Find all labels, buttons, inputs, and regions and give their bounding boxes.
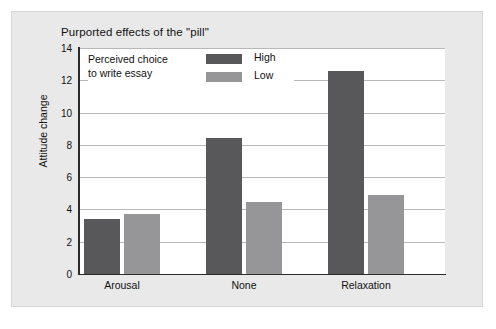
x-axis-label-arousal: Arousal [104,279,140,291]
chart-figure: Purported effects of the "pill" Attitude… [0,0,496,329]
y-axis-tick-label: 8 [50,139,72,150]
y-axis-line [78,47,80,275]
legend-label-high: High [254,51,276,63]
bar-none-low [246,202,282,274]
x-axis-label-relaxation: Relaxation [341,279,391,291]
y-axis-tick-label: 14 [50,43,72,54]
bar-relaxation-low [368,195,404,274]
y-axis-tick-label: 10 [50,107,72,118]
legend-label-low: Low [254,69,273,81]
y-axis-tick-labels: 02468101214 [48,48,72,274]
y-axis-tick-label: 6 [50,172,72,183]
gridline [78,177,445,178]
y-axis-tick-label: 12 [50,75,72,86]
chart-title: Purported effects of the "pill" [61,26,209,38]
legend-title: Perceived choice to write essay [88,52,200,80]
gridline [78,145,445,146]
legend-swatch-high-icon [206,54,242,64]
x-axis-line [78,274,446,276]
legend-title-line-2: to write essay [88,66,200,80]
y-axis-tick-label: 0 [50,269,72,280]
bar-none-high [206,138,242,274]
bar-arousal-high [84,219,120,274]
legend-swatch-low-icon [206,72,242,82]
gridline [78,113,445,114]
y-axis-tick-label: 4 [50,204,72,215]
legend-title-line-1: Perceived choice [88,52,200,66]
chart-legend: Perceived choice to write essay High Low [88,52,294,88]
y-axis-tick-label: 2 [50,236,72,247]
bar-relaxation-high [328,71,364,274]
x-axis-label-none: None [231,279,256,291]
gridline [78,48,445,49]
bar-arousal-low [124,214,160,274]
